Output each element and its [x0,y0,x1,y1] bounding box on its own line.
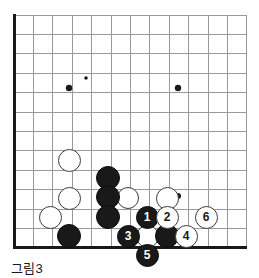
go-diagram-figure: 123456 그림3 [0,0,259,278]
move-stone-5-black[interactable]: 5 [136,244,159,267]
move-number-label: 5 [137,245,158,266]
move-number-label: 1 [137,207,158,228]
move-number-label: 4 [176,226,197,247]
star-point [84,76,88,80]
move-stone-4-white[interactable]: 4 [175,225,198,248]
stone-black[interactable] [96,205,120,229]
move-stone-6-white[interactable]: 6 [195,206,218,229]
move-number-label: 3 [118,226,139,247]
stone-black[interactable] [57,224,81,248]
star-point [66,85,72,91]
stone-white[interactable] [39,206,62,229]
move-number-label: 6 [196,207,217,228]
figure-caption: 그림3 [11,258,43,277]
move-number-label: 2 [157,207,178,228]
star-point [175,85,181,91]
stone-white[interactable] [58,149,81,172]
stone-white[interactable] [58,187,81,210]
